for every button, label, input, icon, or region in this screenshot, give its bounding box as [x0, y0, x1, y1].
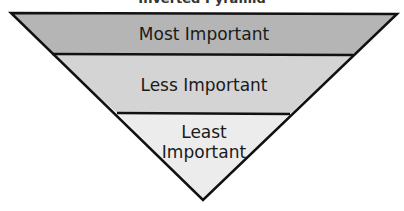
divider-line — [117, 113, 290, 114]
level-label-least-important-line2: Important — [162, 142, 247, 162]
divider-line — [52, 54, 353, 55]
level-label-most-important: Most Important — [139, 24, 270, 44]
level-label-least-important-line1: Least — [181, 122, 227, 142]
level-label-less-important: Less Important — [140, 75, 267, 95]
inverted-pyramid: Most Important Less Important Least Impo… — [0, 0, 404, 211]
